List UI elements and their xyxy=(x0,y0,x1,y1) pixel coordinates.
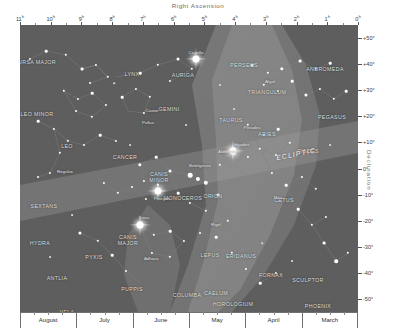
month-tick xyxy=(105,312,106,315)
star xyxy=(111,254,114,257)
star xyxy=(37,120,40,123)
star xyxy=(215,236,218,239)
dec-tick xyxy=(358,195,362,196)
star xyxy=(71,214,73,216)
star xyxy=(177,192,180,195)
constellation-label-cancer: CANCER xyxy=(113,154,137,160)
star xyxy=(99,134,102,137)
ra-tick-label-5h: 5h xyxy=(202,14,207,22)
month-tick xyxy=(316,312,317,315)
star xyxy=(113,82,115,84)
month-tick xyxy=(203,312,204,315)
sky-map[interactable]: URSA MAJOR LYNX LEO MINOR LEO CANCER SEX… xyxy=(20,25,358,312)
ra-tick-label-1h: 1h xyxy=(325,14,330,22)
dec-tick-label-10: -10° xyxy=(363,192,373,198)
month-tick xyxy=(259,312,260,315)
star xyxy=(49,256,51,258)
star xyxy=(169,230,172,233)
constellation-label-sculptor: SCULPTOR xyxy=(292,277,324,283)
constellation-label-canis-major: CANISMAJOR xyxy=(118,234,138,246)
dec-tick-label-30: +30° xyxy=(363,87,375,93)
month-tick xyxy=(175,312,176,315)
month-tick xyxy=(330,312,331,315)
constellation-label-pegasus: PEGASUS xyxy=(318,114,346,120)
dec-tick-label-20: +20° xyxy=(363,113,375,119)
month-tick xyxy=(62,312,63,315)
dec-tick xyxy=(358,247,362,248)
dec-tick xyxy=(358,221,362,222)
star-label-castor: Castor xyxy=(146,108,159,113)
star xyxy=(37,176,39,178)
constellation-label-horologium: HOROLOGIUM xyxy=(213,301,253,307)
star xyxy=(329,62,332,65)
ra-tick-label-7h: 7h xyxy=(140,14,145,22)
star xyxy=(75,110,77,112)
declination-axis: +50°+40°+30°+20°+10°0°-10°-20°-30°-40°-5… xyxy=(358,25,380,312)
ra-tick-label-4h: 4h xyxy=(232,14,237,22)
star xyxy=(45,50,48,53)
constellation-label-perseus: PERSEUS xyxy=(230,62,258,68)
month-label-april: April xyxy=(267,317,279,323)
star xyxy=(291,80,294,83)
month-tick xyxy=(147,312,148,315)
ra-tick-label-8h: 8h xyxy=(109,14,114,22)
star xyxy=(121,96,124,99)
constellation-label-antlia: ANTLIA xyxy=(47,275,68,281)
month-label-june: June xyxy=(154,317,167,323)
star xyxy=(277,128,280,131)
star xyxy=(188,173,193,178)
ra-tick-label-2h: 2h xyxy=(294,14,299,22)
month-tick xyxy=(119,312,120,315)
constellation-label-columba: COLUMBA xyxy=(173,292,202,298)
star xyxy=(261,242,263,244)
constellation-label-gemini: GEMINI xyxy=(159,106,180,112)
star-label-mira: Mira xyxy=(274,195,283,200)
month-label-may: May xyxy=(211,317,222,323)
constellation-label-sextans: SEXTANS xyxy=(31,203,58,209)
star xyxy=(185,124,187,126)
dec-tick-label-30: -30° xyxy=(363,244,373,250)
constellation-label-leo-minor: LEO MINOR xyxy=(21,111,54,117)
dec-tick xyxy=(358,64,362,65)
month-axis: AugustJulyJuneMayAprilMarch xyxy=(20,312,358,328)
month-label-august: August xyxy=(39,317,58,323)
month-tick xyxy=(161,312,162,315)
star xyxy=(199,232,201,234)
star-label-procyon: Procyon xyxy=(154,196,170,201)
star xyxy=(233,108,235,110)
month-divider xyxy=(20,312,21,328)
month-divider xyxy=(189,312,190,328)
ra-tick-label-6h: 6h xyxy=(171,14,176,22)
constellation-label-caelum: CAELUM xyxy=(204,290,228,296)
month-divider xyxy=(133,312,134,328)
constellation-label-orion: ORION xyxy=(203,193,222,199)
ra-tick-label-11h: 11h xyxy=(16,14,24,22)
star-chart-page: Right Ascension Declination 11h10h9h8h7h… xyxy=(0,0,396,330)
dec-tick xyxy=(358,299,362,300)
constellation-label-triangulum: TRIANGULUM xyxy=(248,89,287,95)
star xyxy=(89,82,91,84)
star-label-aldebaran: Aldebaran xyxy=(218,149,238,154)
month-divider xyxy=(357,312,358,328)
constellation-label-lepus: LEPUS xyxy=(200,252,219,258)
month-tick xyxy=(90,312,91,315)
right-ascension-axis-title: Right Ascension xyxy=(0,2,396,9)
star xyxy=(83,144,85,146)
month-label-march: March xyxy=(321,317,338,323)
month-divider xyxy=(245,312,246,328)
constellation-label-taurus: TAURUS xyxy=(219,117,242,123)
ra-tick-label-9h: 9h xyxy=(79,14,84,22)
star xyxy=(297,208,300,211)
star xyxy=(81,68,84,71)
star xyxy=(131,186,133,188)
dec-tick-label-40: +40° xyxy=(363,61,375,67)
star-label-pleiades: Pleiades xyxy=(244,125,261,130)
dec-tick-label-0: 0° xyxy=(363,166,368,172)
star-label-pollux: Pollux xyxy=(142,120,154,125)
constellation-label-aries: ARIES xyxy=(258,131,276,137)
dec-tick-label-40: -40° xyxy=(363,270,373,276)
right-ascension-axis: 11h10h9h8h7h6h5h4h3h2h1h0h xyxy=(20,14,358,25)
month-tick xyxy=(34,312,35,315)
constellation-label-ursa-major: URSA MAJOR xyxy=(20,59,56,65)
constellation-label-hydra: HYDRA xyxy=(30,240,50,246)
